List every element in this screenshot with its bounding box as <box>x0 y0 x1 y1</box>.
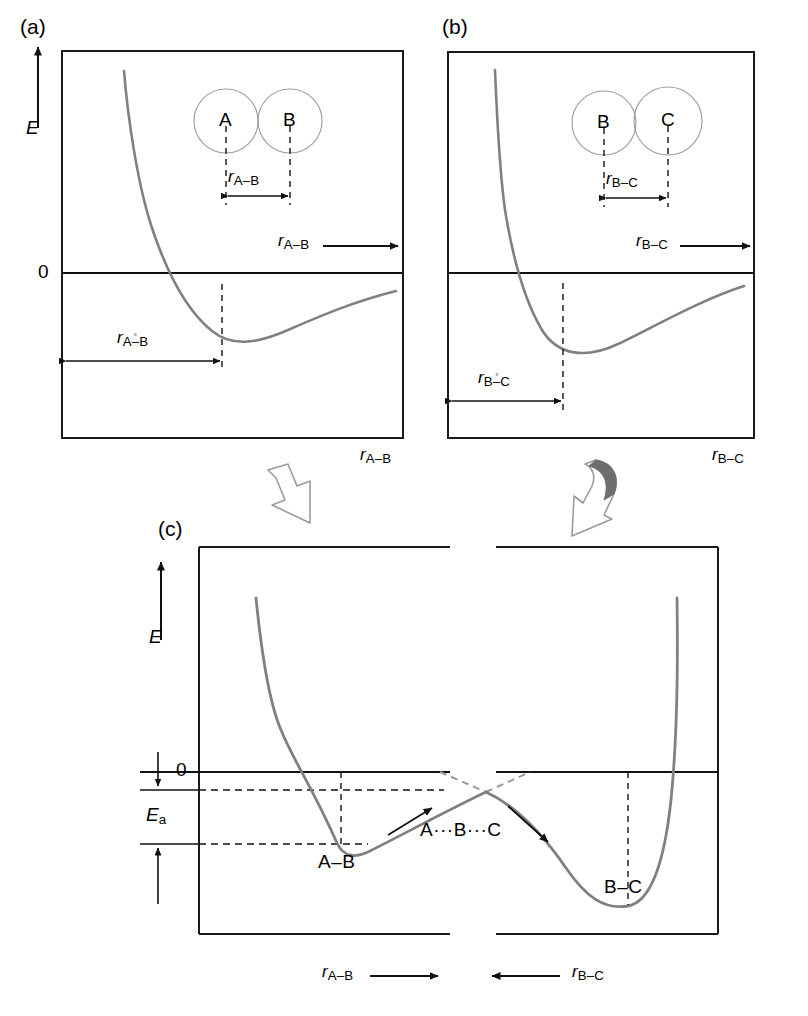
panel-c-right-axis-label: rB–C <box>572 963 604 982</box>
panel-c-left-axis-label: rA–B <box>322 963 353 982</box>
panel-c-tag: (c) <box>158 518 183 539</box>
panel-b-equilibrium-label: r°B–C <box>478 369 510 388</box>
panel-a-equilibrium-label: r°A–B <box>117 329 148 348</box>
panel-a <box>38 47 403 438</box>
panel-b-direction-label: rB–C <box>636 232 668 251</box>
panel-a-energy-label: E <box>26 118 39 137</box>
panel-a-frame <box>62 51 403 438</box>
panel-c-left-sub: A–B <box>328 968 354 983</box>
panel-b-eq-degree: ° <box>495 373 498 381</box>
panel-c-dashed-crossing-right <box>486 772 530 792</box>
panel-b-x-sub: B–C <box>718 451 744 466</box>
panel-b-separation-label: rB–C <box>606 170 638 189</box>
panel-c-curve-right-branch <box>486 598 677 907</box>
panel-c-reactant-well-label: A–B <box>318 852 355 871</box>
panel-a-potential-curve <box>124 71 396 342</box>
panel-c-energy-label: E <box>149 627 162 646</box>
panel-b-x-axis-label: rB–C <box>712 446 744 465</box>
panel-c-dashed-crossing-left <box>440 772 486 792</box>
panel-a-atom-a-label: A <box>219 110 232 129</box>
panel-c-descent-arrow <box>508 806 548 842</box>
panel-c-ea-sym: E <box>146 804 159 825</box>
panel-b-dir-sub: B–C <box>642 237 668 252</box>
panel-a-eq-degree: ° <box>134 333 137 341</box>
panel-b-potential-curve <box>495 70 744 353</box>
panel-c-zero-label: 0 <box>176 760 187 779</box>
panel-b-atom-c-label: C <box>661 110 675 129</box>
connector-arrow-left <box>268 464 310 523</box>
panel-a-eq-sub-wrap: °A–B <box>123 335 149 348</box>
panel-a-x-sub: A–B <box>366 451 392 466</box>
panel-a-dir-sub: A–B <box>284 237 310 252</box>
panel-b-atom-b-label: B <box>597 112 610 131</box>
panel-c-curve-left-branch <box>256 598 486 856</box>
connector-arrow-right <box>572 460 616 536</box>
panel-a-sep-sub: A–B <box>234 173 260 188</box>
panel-c-transition-state-label: A···B···C <box>420 820 502 839</box>
panel-b-sep-sub: B–C <box>612 175 638 190</box>
energy-diagram-figure <box>0 0 808 1016</box>
panel-a-tag: (a) <box>20 16 46 37</box>
panel-a-direction-label: rA–B <box>278 232 309 251</box>
panel-c-right-sub: B–C <box>578 968 604 983</box>
panel-a-x-axis-label: rA–B <box>360 446 391 465</box>
panel-a-atom-b-label: B <box>283 110 296 129</box>
panel-c-product-well-label: B–C <box>604 877 642 896</box>
panel-c-ea-sub: a <box>159 812 166 827</box>
panel-a-separation-label: rA–B <box>228 168 259 187</box>
panel-c-activation-energy-label: Ea <box>146 805 166 826</box>
panel-a-zero-label: 0 <box>38 262 49 281</box>
panel-c <box>140 547 718 976</box>
panel-b-eq-sub-wrap: °B–C <box>484 375 510 388</box>
panel-b-tag: (b) <box>442 16 468 37</box>
